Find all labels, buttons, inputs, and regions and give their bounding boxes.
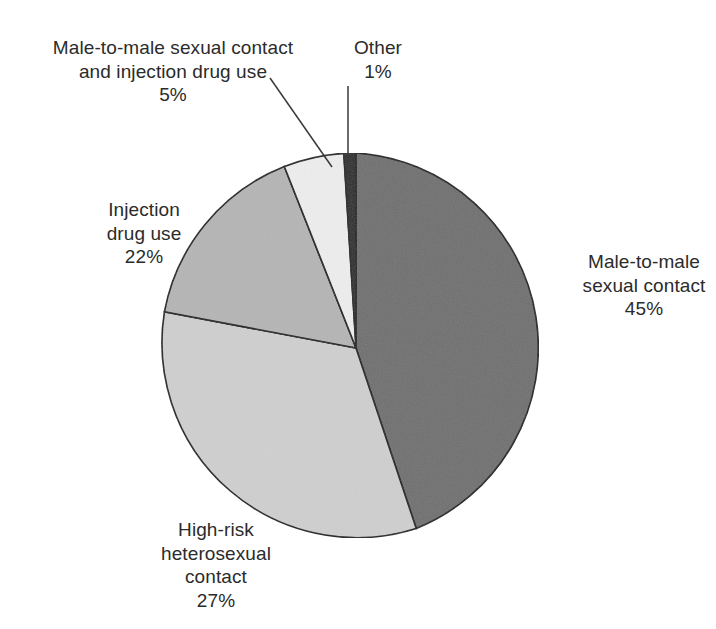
slice-label-other: Other 1% <box>330 36 426 83</box>
slice-label-male-to-male-sexual-contact: Male-to-male sexual contact 45% <box>574 250 714 321</box>
slice-label-high-risk-heterosexual-contact: High-risk heterosexual contact 27% <box>124 518 308 612</box>
slice-label-male-to-male-sexual-contact-and-injection-drug-use: Male-to-male sexual contact and injectio… <box>14 36 332 107</box>
slice-label-injection-drug-use: Injection drug use 22% <box>64 198 224 269</box>
pie-chart-figure: Male-to-male sexual contact and injectio… <box>0 0 716 629</box>
